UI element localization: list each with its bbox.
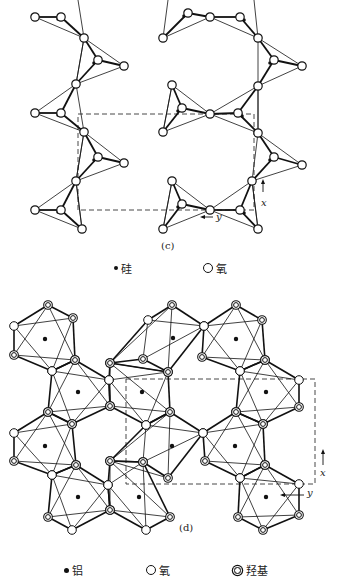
silicon-dot-icon bbox=[114, 266, 118, 270]
oxygen-atom bbox=[200, 322, 209, 331]
aluminum-atom bbox=[234, 337, 238, 341]
oxygen-atom bbox=[104, 481, 113, 490]
oxygen-atom bbox=[236, 474, 245, 483]
legend-silicon: 硅 bbox=[114, 260, 132, 276]
octahedron-edge bbox=[72, 510, 110, 530]
hydroxyl-inner-ring bbox=[263, 358, 268, 363]
octahedron-edge bbox=[110, 510, 146, 530]
octahedron-edge bbox=[263, 424, 265, 465]
oxygen-circle-icon bbox=[146, 565, 156, 575]
octahedron-diagonal bbox=[168, 412, 170, 478]
hydroxyl-inner-ring bbox=[74, 463, 79, 468]
hydroxyl-inner-ring bbox=[70, 422, 75, 427]
hydroxyl-inner-ring bbox=[297, 513, 302, 518]
octahedron-diagonal bbox=[240, 478, 263, 530]
hydroxyl-inner-ring bbox=[108, 404, 113, 409]
aluminum-atom bbox=[233, 444, 237, 448]
aluminum-atom bbox=[140, 390, 144, 394]
octahedron-diagonal bbox=[202, 305, 236, 357]
hydroxyl-inner-ring bbox=[260, 318, 265, 323]
octahedron-edge bbox=[14, 412, 48, 433]
legend-oxygen-c: 氧 bbox=[203, 260, 227, 276]
octahedron-diagonal bbox=[205, 461, 265, 465]
hydroxyl-inner-ring bbox=[108, 459, 113, 464]
oxygen-atom bbox=[10, 429, 19, 438]
octahedron-diagonal bbox=[146, 425, 203, 433]
octahedron-edge bbox=[14, 305, 48, 326]
octahedron-diagonal bbox=[143, 462, 146, 530]
hydroxyl-inner-ring bbox=[168, 515, 173, 520]
oxygen-circle-icon bbox=[203, 263, 213, 273]
hydroxyl-inner-ring bbox=[170, 303, 175, 308]
hydroxyl-inner-ring bbox=[12, 353, 17, 358]
octahedron-diagonal bbox=[14, 412, 48, 461]
hydroxyl-inner-ring bbox=[141, 460, 146, 465]
octahedron-diagonal bbox=[14, 326, 52, 371]
aluminum-atom bbox=[171, 336, 175, 340]
octahedron-edge bbox=[168, 326, 204, 372]
hydroxyl-inner-ring bbox=[71, 316, 76, 321]
hydroxyl-inner-ring bbox=[166, 370, 171, 375]
legend-silicon-label: 硅 bbox=[121, 260, 132, 276]
caption-d: (d) bbox=[179, 522, 193, 533]
hydroxyl-inner-ring bbox=[297, 405, 302, 410]
octahedron-edge bbox=[203, 412, 236, 433]
octahedron-edge bbox=[110, 359, 143, 363]
octahedron-diagonal bbox=[110, 305, 172, 363]
octahedron-edge bbox=[170, 412, 203, 433]
legend-aluminum: 铝 bbox=[64, 562, 83, 578]
hydroxyl-inner-ring bbox=[168, 410, 173, 415]
aluminum-atom bbox=[76, 390, 80, 394]
octahedron-diagonal bbox=[14, 305, 48, 355]
oxygen-atom bbox=[199, 429, 208, 438]
octahedron-diagonal bbox=[205, 412, 236, 461]
y-arrowhead-d-icon bbox=[280, 493, 285, 497]
octahedron-edge bbox=[110, 461, 143, 462]
oxygen-atom bbox=[144, 316, 153, 325]
legend-hydroxyl-label: 羟基 bbox=[246, 562, 268, 578]
octahedron-diagonal bbox=[48, 510, 110, 517]
aluminum-atom bbox=[43, 444, 47, 448]
legend-hydroxyl: 羟基 bbox=[232, 562, 268, 578]
hydroxyl-inner-ring bbox=[234, 410, 239, 415]
octahedron-diagonal bbox=[263, 380, 299, 424]
hydroxyl-inner-ring bbox=[263, 463, 268, 468]
hydroxyl-inner-ring bbox=[108, 361, 113, 366]
oxygen-atom bbox=[105, 376, 114, 385]
oxygen-atom bbox=[295, 480, 304, 489]
hydroxyl-inner-ring bbox=[261, 528, 266, 533]
hydroxyl-inner-ring bbox=[141, 357, 146, 362]
oxygen-atom bbox=[48, 367, 57, 376]
octahedron-diagonal bbox=[146, 372, 168, 425]
octahedron-diagonal bbox=[202, 357, 265, 360]
legend-oxygen-d: 氧 bbox=[146, 562, 170, 578]
hydroxyl-inner-ring bbox=[236, 515, 241, 520]
octahedron-edge bbox=[205, 461, 240, 478]
octahedron-edge bbox=[168, 372, 170, 412]
octahedron-diagonal bbox=[48, 305, 75, 360]
legend-aluminum-label: 铝 bbox=[72, 562, 83, 578]
axis-x-label-c: x bbox=[261, 197, 267, 208]
hydroxyl-inner-ring bbox=[46, 515, 51, 520]
caption-c: (c) bbox=[161, 240, 174, 251]
octahedron-diagonal bbox=[143, 326, 204, 359]
aluminum-atom bbox=[43, 337, 47, 341]
hydroxyl-inner-ring bbox=[166, 476, 171, 481]
aluminum-atom bbox=[137, 495, 141, 499]
aluminum-atom bbox=[76, 495, 80, 499]
axis-x-label-d: x bbox=[320, 467, 326, 478]
octahedron-diagonal bbox=[14, 318, 73, 326]
hydroxyl-inner-ring bbox=[46, 410, 51, 415]
octahedron-edge bbox=[262, 320, 265, 360]
oxygen-atom bbox=[48, 471, 57, 480]
octahedron-diagonal bbox=[109, 380, 146, 425]
hydroxyl-inner-ring bbox=[203, 459, 208, 464]
aluminum-atom bbox=[170, 444, 174, 448]
x-arrowhead-d-icon bbox=[321, 449, 325, 454]
hydroxyl-double-circle-icon bbox=[234, 567, 241, 574]
aluminum-atom bbox=[264, 495, 268, 499]
octahedron-edge bbox=[110, 425, 146, 461]
hydroxyl-inner-ring bbox=[12, 459, 17, 464]
gibbsite-octahedral-sheet-diagram bbox=[0, 0, 337, 581]
oxygen-atom bbox=[68, 526, 77, 535]
